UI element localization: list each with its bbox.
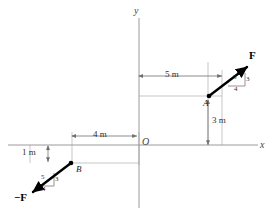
dimension-label-1m: 1 m — [22, 148, 36, 157]
force-vector-F — [207, 67, 247, 98]
slope-label-F-horizontal: 4 — [234, 86, 238, 93]
axes-group — [8, 18, 258, 208]
point-label-A: A — [203, 99, 209, 108]
slope-label-F-vertical: 3 — [246, 76, 250, 83]
physics-diagram: y x O A B F −F 5 m 3 m 4 m 1 m 5 3 4 5 3… — [0, 0, 271, 221]
dimension-label-5m: 5 m — [165, 70, 179, 79]
point-B-dot — [69, 161, 74, 166]
dimension-label-3m: 3 m — [212, 116, 226, 125]
force-vector-F-shaft — [209, 67, 247, 96]
force-vector-negF-shaft — [33, 163, 71, 192]
slope-label-negF-vertical: 3 — [55, 176, 59, 183]
slope-label-F-hyp: 5 — [233, 74, 237, 81]
dimension-label-4m: 4 m — [93, 130, 107, 139]
point-label-B: B — [76, 165, 82, 174]
vector-label-F: F — [249, 50, 256, 61]
vector-label-negF: −F — [14, 192, 27, 203]
x-axis-label: x — [260, 140, 264, 150]
construction-lines — [30, 62, 222, 165]
diagram-canvas — [0, 0, 271, 221]
slope-label-negF-horizontal: 4 — [42, 186, 46, 193]
slope-label-negF-hyp: 5 — [41, 174, 45, 181]
y-axis-label: y — [134, 6, 138, 16]
force-vector-negF — [33, 161, 73, 192]
origin-label: O — [142, 137, 149, 147]
